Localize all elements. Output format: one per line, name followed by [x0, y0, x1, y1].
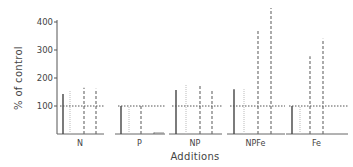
y-tick-label: 400	[37, 17, 53, 27]
x-axis-title: Additions	[170, 151, 219, 162]
category-label: NPFe	[246, 139, 266, 148]
category-label: N	[77, 139, 83, 148]
category-label: P	[137, 139, 142, 148]
category-label: NP	[190, 139, 201, 148]
bars	[63, 8, 323, 134]
y-tick-label: 200	[37, 73, 53, 83]
y-axis-title: % of control	[13, 46, 24, 110]
y-tick-label: 300	[37, 45, 53, 55]
y-tick-label: 100	[37, 101, 53, 111]
chart: 100200300400 NPNPNPFeFe % of control Add…	[0, 0, 353, 167]
x-axis: NPNPNPFeFe	[57, 134, 348, 148]
y-axis: 100200300400	[37, 17, 57, 134]
category-label: Fe	[312, 139, 321, 148]
